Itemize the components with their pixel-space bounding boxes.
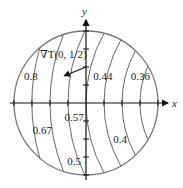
isotherm-value-label: 0.57 bbox=[64, 111, 84, 123]
gradient-label: ∇T(0, 1/2) bbox=[40, 48, 87, 61]
isotherm-value-label: 0.36 bbox=[131, 70, 151, 82]
isotherm-value-label: 0.4 bbox=[113, 133, 127, 145]
x-axis-label: x bbox=[171, 97, 177, 109]
isotherm-value-label: 0.67 bbox=[33, 124, 53, 136]
isotherm-value-label: 0.44 bbox=[93, 70, 113, 82]
y-axis-label: y bbox=[81, 5, 87, 17]
isotherm-value-label: 0.8 bbox=[24, 70, 38, 82]
isotherm-diagram: x y 0.80.670.570.50.440.40.36 ∇T(0, 1/2) bbox=[0, 0, 183, 188]
isotherm-value-label: 0.5 bbox=[67, 155, 81, 167]
gradient-vector-arrow bbox=[64, 67, 86, 76]
